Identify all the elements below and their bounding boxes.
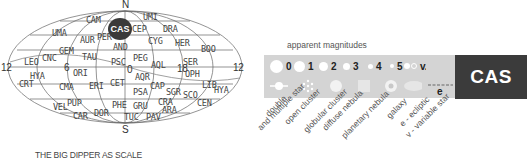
pole-north-label: N <box>122 0 129 9</box>
star-map: N S 12 6 0 18 12 CAS CAMUMICEPDRAUMAAURP… <box>0 0 245 164</box>
constellation-label-dra: DRA <box>163 25 177 34</box>
constellation-label-cyg: CYG <box>148 37 162 46</box>
constellation-label-ori: ORI <box>73 69 87 78</box>
pole-south-label: S <box>122 125 128 134</box>
constellation-label-cep: CEP <box>132 25 146 34</box>
magnitude-variable: v. <box>404 58 428 74</box>
highlight-cas-badge: CAS <box>108 18 132 40</box>
constellation-tag: CAS <box>455 55 527 99</box>
variable-star-faint-icon <box>411 63 417 69</box>
constellation-label-crt: CRT <box>19 80 33 89</box>
magnitude-4: 4 <box>368 58 382 74</box>
magnitude-3: 3 <box>343 58 359 74</box>
constellation-label-vel: VEL <box>53 103 67 112</box>
constellation-label-gru: GRU <box>133 102 147 111</box>
constellation-label-pup: PUP <box>67 99 81 108</box>
constellation-label-psa: PSA <box>133 88 147 97</box>
magnitude-row: 0 1 2 3 4 5 v. <box>264 58 426 74</box>
star-dot-icon <box>390 64 394 68</box>
constellation-label-leo: LEO <box>24 58 38 67</box>
variable-star-icon <box>404 63 410 69</box>
star-dot-icon <box>368 64 373 69</box>
hour-label-0: 0 <box>127 65 132 74</box>
constellation-label-tuc: TUC <box>124 113 138 122</box>
constellation-label-tau: TAU <box>82 53 96 62</box>
galaxy-icon <box>402 77 422 95</box>
constellation-label-aql: AQL <box>151 61 165 70</box>
constellation-label-aur: AUR <box>80 36 94 45</box>
constellation-label-ser: SER <box>183 58 197 67</box>
constellation-label-per: PER <box>97 33 111 42</box>
hour-label-12-left: 12 <box>1 63 12 72</box>
constellation-label-cen: CEN <box>197 99 211 108</box>
constellation-label-umi: UMI <box>143 13 157 22</box>
map-caption: THE BIG DIPPER AS SCALE <box>35 150 142 160</box>
ecliptic-legend-cell: e <box>426 55 455 98</box>
constellation-label-ara: ARA <box>162 106 176 115</box>
constellation-label-boo: BOO <box>201 45 215 54</box>
constellation-label-sco: SCO <box>183 91 197 100</box>
constellation-label-cap: CAP <box>150 82 164 91</box>
constellation-label-her: HER <box>175 39 189 48</box>
star-dot-icon <box>270 60 283 73</box>
constellation-label-peg: PEG <box>133 54 147 63</box>
constellation-label-cam: CAM <box>86 16 100 25</box>
hour-label-6: 6 <box>64 63 69 72</box>
constellation-label-pav: PAV <box>146 113 160 122</box>
constellation-label-cet: CET <box>110 79 124 88</box>
constellation-label-oph: OPH <box>185 70 199 79</box>
constellation-label-dor: DOR <box>94 109 108 118</box>
star-dot-icon <box>319 62 328 71</box>
constellation-label-uma: UMA <box>52 29 66 38</box>
magnitude-2: 2 <box>319 58 337 74</box>
constellation-label-gem: GEM <box>59 47 73 56</box>
constellation-label-eri: ERI <box>89 82 103 91</box>
constellation-label-cnc: CNC <box>42 54 56 63</box>
star-dot-icon <box>343 63 350 70</box>
hour-label-12-right: 12 <box>233 63 244 72</box>
double-star-icon <box>268 77 288 95</box>
magnitude-0: 0 <box>270 58 292 74</box>
constellation-label-sgr: SGR <box>166 88 180 97</box>
magnitude-1: 1 <box>294 58 314 74</box>
magnitude-5: 5 <box>390 58 403 74</box>
constellation-label-aqr: AQR <box>135 73 149 82</box>
star-dot-icon <box>294 61 305 72</box>
constellation-label-hya: HYA <box>214 86 228 95</box>
constellation-label-and: AND <box>113 43 127 52</box>
constellation-label-psc: PSC <box>111 58 125 67</box>
legend-title: apparent magnitudes <box>287 40 367 50</box>
constellation-label-car: CAR <box>73 112 87 121</box>
constellation-label-phe: PHE <box>112 101 126 110</box>
constellation-label-cma: CMA <box>59 83 73 92</box>
